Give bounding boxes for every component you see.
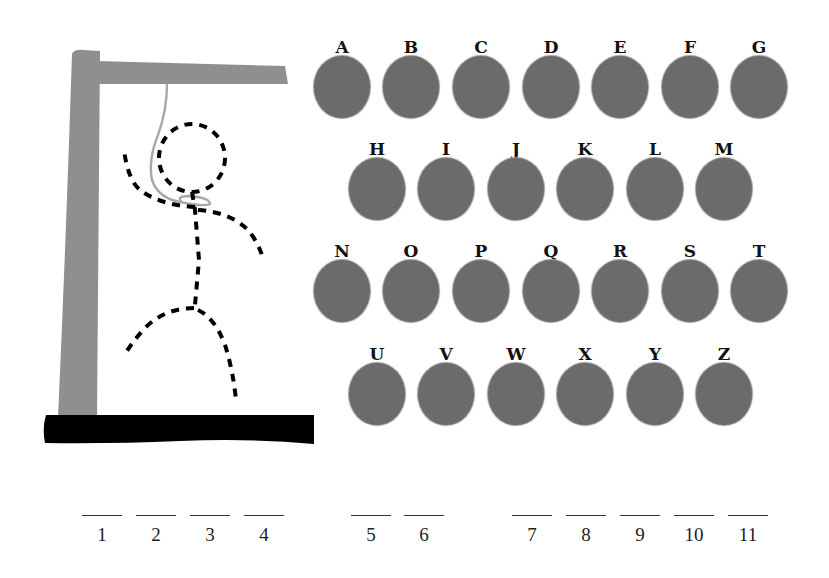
letter-button-j[interactable]: J: [486, 138, 546, 220]
letter-disc[interactable]: [627, 363, 683, 425]
letter-disc[interactable]: [557, 363, 613, 425]
letter-label: W: [486, 343, 546, 365]
letter-label: L: [625, 138, 685, 160]
letter-disc[interactable]: [557, 158, 613, 220]
blank-underline: [728, 515, 768, 516]
letter-disc[interactable]: [418, 363, 474, 425]
letter-blank: 1: [82, 515, 122, 555]
hangman-body: [192, 192, 199, 305]
letter-disc[interactable]: [383, 56, 439, 118]
blank-position-number: 4: [238, 524, 290, 546]
letter-disc[interactable]: [453, 260, 509, 322]
letter-button-x[interactable]: X: [555, 343, 615, 425]
letter-button-b[interactable]: B: [381, 36, 441, 118]
letter-label: R: [590, 240, 650, 262]
blank-underline: [620, 515, 660, 516]
letter-blank: 8: [566, 515, 606, 555]
letter-button-v[interactable]: V: [416, 343, 476, 425]
blank-underline: [190, 515, 230, 516]
letter-label: D: [521, 36, 581, 58]
letter-label: V: [416, 343, 476, 365]
letter-disc[interactable]: [696, 158, 752, 220]
hangman-head: [159, 124, 225, 192]
letter-button-i[interactable]: I: [416, 138, 476, 220]
letter-button-d[interactable]: D: [521, 36, 581, 118]
letter-disc[interactable]: [662, 260, 718, 322]
letter-blank: 4: [244, 515, 284, 555]
blank-position-number: 6: [398, 524, 450, 546]
letter-label: Z: [694, 343, 754, 365]
letter-disc[interactable]: [314, 260, 370, 322]
letter-button-o[interactable]: O: [381, 240, 441, 322]
letter-button-p[interactable]: P: [451, 240, 511, 322]
letter-disc[interactable]: [523, 260, 579, 322]
letter-button-h[interactable]: H: [347, 138, 407, 220]
blank-position-number: 3: [184, 524, 236, 546]
letter-button-q[interactable]: Q: [521, 240, 581, 322]
letter-disc[interactable]: [592, 260, 648, 322]
hangman-drawing: [0, 0, 330, 460]
letter-button-a[interactable]: A: [312, 36, 372, 118]
letter-blank: 10: [674, 515, 714, 555]
letter-blank: 2: [136, 515, 176, 555]
letter-label: A: [312, 36, 372, 58]
letter-blank: 7: [512, 515, 552, 555]
letter-button-f[interactable]: F: [660, 36, 720, 118]
letter-label: T: [729, 240, 789, 262]
letter-button-r[interactable]: R: [590, 240, 650, 322]
letter-disc[interactable]: [731, 260, 787, 322]
letter-button-w[interactable]: W: [486, 343, 546, 425]
letter-button-t[interactable]: T: [729, 240, 789, 322]
letter-disc[interactable]: [592, 56, 648, 118]
letter-label: Q: [521, 240, 581, 262]
letter-blank: 6: [404, 515, 444, 555]
letter-disc[interactable]: [314, 56, 370, 118]
blank-position-number: 11: [722, 524, 774, 546]
gallows-base: [44, 415, 314, 444]
letter-label: N: [312, 240, 372, 262]
letter-button-l[interactable]: L: [625, 138, 685, 220]
letter-label: O: [381, 240, 441, 262]
blank-position-number: 5: [345, 524, 397, 546]
letter-button-z[interactable]: Z: [694, 343, 754, 425]
letter-disc[interactable]: [662, 56, 718, 118]
letter-button-c[interactable]: C: [451, 36, 511, 118]
letter-disc[interactable]: [696, 363, 752, 425]
letter-button-g[interactable]: G: [729, 36, 789, 118]
blank-position-number: 2: [130, 524, 182, 546]
letter-disc[interactable]: [453, 56, 509, 118]
blank-underline: [566, 515, 606, 516]
blank-underline: [136, 515, 176, 516]
letter-label: Y: [625, 343, 685, 365]
letter-disc[interactable]: [523, 56, 579, 118]
letter-disc[interactable]: [349, 158, 405, 220]
letter-blank: 11: [728, 515, 768, 555]
letter-button-u[interactable]: U: [347, 343, 407, 425]
letter-disc[interactable]: [383, 260, 439, 322]
letter-button-y[interactable]: Y: [625, 343, 685, 425]
letter-disc[interactable]: [488, 158, 544, 220]
letter-button-m[interactable]: M: [694, 138, 754, 220]
letter-disc[interactable]: [418, 158, 474, 220]
letter-button-n[interactable]: N: [312, 240, 372, 322]
letter-blank: 9: [620, 515, 660, 555]
letter-disc[interactable]: [627, 158, 683, 220]
letter-label: M: [694, 138, 754, 160]
letter-label: F: [660, 36, 720, 58]
letter-label: S: [660, 240, 720, 262]
blank-position-number: 10: [668, 524, 720, 546]
hangman-left-arm: [124, 150, 195, 207]
letter-button-k[interactable]: K: [555, 138, 615, 220]
letter-disc[interactable]: [488, 363, 544, 425]
letter-disc[interactable]: [731, 56, 787, 118]
letter-label: J: [486, 138, 546, 160]
letter-blank: 3: [190, 515, 230, 555]
hangman-right-arm: [198, 210, 263, 258]
gallows-beam: [96, 61, 288, 84]
letter-button-e[interactable]: E: [590, 36, 650, 118]
letter-label: H: [347, 138, 407, 160]
blank-underline: [82, 515, 122, 516]
letter-disc[interactable]: [349, 363, 405, 425]
letter-button-s[interactable]: S: [660, 240, 720, 322]
blank-position-number: 8: [560, 524, 612, 546]
